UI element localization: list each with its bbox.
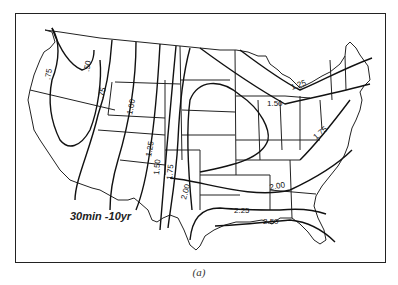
isoline-label: 1.75 [312, 124, 330, 141]
isoline-labels: .75 .50 .75 1.00 1.25 1.50 1.75 2.00 1.2… [43, 59, 330, 226]
map-title: 30min -10yr [70, 210, 131, 222]
isoline-label: 1.50 [152, 158, 162, 175]
isoline-label: 1.25 [144, 140, 156, 157]
isoline-label: 2.00 [269, 180, 286, 192]
isopluvial-map: .75 .50 .75 1.00 1.25 1.50 1.75 2.00 1.2… [0, 0, 398, 285]
isoline-label: 1.75 [165, 163, 175, 180]
isoline-label: .50 [82, 59, 93, 72]
isoline-label: 2.25 [234, 206, 250, 215]
isoline-label: 1.50 [267, 99, 283, 108]
figure-caption: (a) [0, 266, 398, 278]
isoline-label: 1.00 [125, 98, 137, 116]
isoline-label: 2.50 [263, 217, 279, 226]
